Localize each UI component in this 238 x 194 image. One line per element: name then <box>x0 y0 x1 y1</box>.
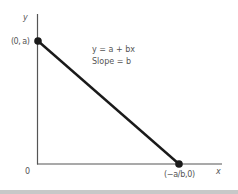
x-intercept-point <box>175 160 183 168</box>
diagram-canvas <box>0 0 238 194</box>
linear-equation-diagram: y (0, a) y = a + bx Slope = b 0 (−a/b,0)… <box>0 0 238 194</box>
x-intercept-label: (−a/b,0) <box>164 171 195 179</box>
y-axis-label: y <box>23 14 28 22</box>
equation-label: y = a + bx <box>92 46 135 54</box>
y-intercept-point <box>34 37 42 45</box>
slope-label: Slope = b <box>92 58 131 66</box>
y-intercept-label: (0, a) <box>11 38 29 46</box>
x-axis-label: x <box>216 168 221 176</box>
bottom-border <box>0 190 238 194</box>
origin-label: 0 <box>25 168 30 176</box>
